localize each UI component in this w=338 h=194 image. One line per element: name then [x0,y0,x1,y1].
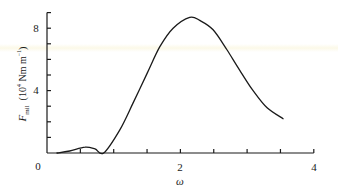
x-tick-label-2: 2 [177,162,183,173]
y-title-unit: (10 [17,87,28,100]
origin-label: 0 [35,161,41,172]
y-title-exp: 4 [16,84,22,87]
y-axis-title: Fmil (104 Nm m−1) [16,47,31,122]
plot-area [0,0,338,194]
x-tick-label-4: 4 [311,162,317,173]
data-line [57,17,283,154]
y-tick-label-4: 4 [33,85,39,96]
y-title-symbol: F [16,115,28,122]
y-title-subscript: mil [23,105,31,114]
y-title-exp2: −1 [16,50,22,56]
y-title-unit-end: ) [17,47,28,50]
axes [47,13,314,153]
x-axis-title: ω [176,175,184,187]
y-tick-label-8: 8 [33,23,39,34]
y-title-unit-mid: Nm m [17,56,28,84]
